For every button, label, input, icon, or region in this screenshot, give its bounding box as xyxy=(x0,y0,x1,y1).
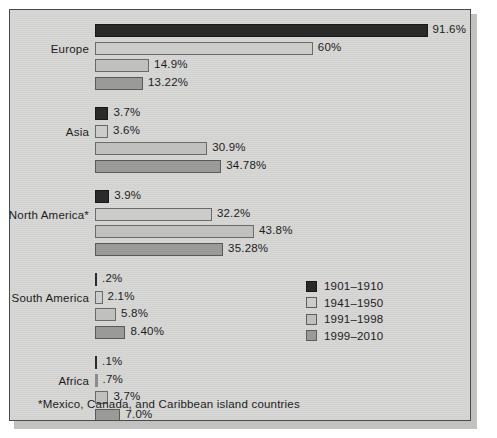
legend-swatch-icon xyxy=(306,281,317,292)
bar xyxy=(95,374,98,387)
bar-value-label: 30.9% xyxy=(212,141,246,153)
legend-item-label: 1901–1910 xyxy=(324,280,383,292)
bar-value-label: 3.6% xyxy=(113,124,140,136)
bar-value-label: 2.1% xyxy=(108,290,135,302)
bar xyxy=(95,42,313,55)
bar xyxy=(95,107,108,120)
legend-item: 1901–1910 xyxy=(306,278,383,295)
bar xyxy=(95,243,223,256)
bar xyxy=(95,142,207,155)
legend-item: 1999–2010 xyxy=(306,328,383,345)
category-label: North America* xyxy=(9,209,89,221)
bar-value-label: .1% xyxy=(102,355,122,367)
chart-panel: Europe91.6%60%14.9%13.22%Asia3.7%3.6%30.… xyxy=(9,9,471,421)
bar-value-label: .2% xyxy=(102,272,122,284)
bar xyxy=(95,160,221,173)
bar-value-label: 32.2% xyxy=(217,207,251,219)
bar xyxy=(95,409,120,422)
bar-value-label: 3.7% xyxy=(113,106,140,118)
chart-legend: 1901–1910 1941–1950 1991–1998 1999–2010 xyxy=(306,278,383,344)
bar xyxy=(95,190,109,203)
bar-value-label: .7% xyxy=(103,373,123,385)
legend-item: 1991–1998 xyxy=(306,311,383,328)
chart-footnote: *Mexico, Canada, and Caribbean island co… xyxy=(38,398,300,410)
legend-swatch-icon xyxy=(306,297,317,308)
legend-item-label: 1991–1998 xyxy=(324,313,383,325)
bar xyxy=(95,77,143,90)
bar xyxy=(95,308,116,321)
bar xyxy=(95,208,212,221)
legend-item-label: 1999–2010 xyxy=(324,330,383,342)
bar-value-label: 13.22% xyxy=(148,76,188,88)
bar xyxy=(95,225,254,238)
bar xyxy=(95,326,125,339)
category-label: South America xyxy=(9,292,89,304)
plot-area: Europe91.6%60%14.9%13.22%Asia3.7%3.6%30.… xyxy=(10,10,470,420)
bar-value-label: 5.8% xyxy=(121,307,148,319)
bar-value-label: 35.28% xyxy=(228,242,268,254)
bar-value-label: 8.40% xyxy=(130,325,164,337)
category-label: Europe xyxy=(9,43,89,55)
bar-value-label: 43.8% xyxy=(259,224,293,236)
category-label: Africa xyxy=(9,375,89,387)
bar xyxy=(95,291,103,304)
bar xyxy=(95,24,428,37)
legend-swatch-icon xyxy=(306,330,317,341)
bar-value-label: 14.9% xyxy=(154,58,188,70)
bar-value-label: 60% xyxy=(318,41,342,53)
legend-item-label: 1941–1950 xyxy=(324,297,383,309)
bar-value-label: 3.9% xyxy=(114,189,141,201)
bar xyxy=(95,125,108,138)
bar xyxy=(95,59,149,72)
bar xyxy=(95,356,97,369)
legend-item: 1941–1950 xyxy=(306,295,383,312)
legend-swatch-icon xyxy=(306,314,317,325)
bar-value-label: 34.78% xyxy=(226,159,266,171)
bar xyxy=(95,273,97,286)
category-label: Asia xyxy=(9,126,89,138)
bar-value-label: 91.6% xyxy=(433,23,467,35)
